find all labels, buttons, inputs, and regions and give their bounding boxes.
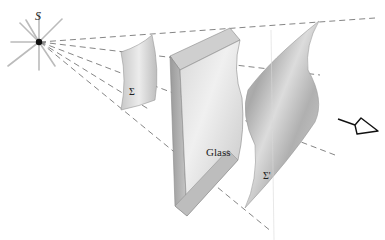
- wavefront-sigma-prime: [245, 21, 319, 208]
- point-source: [36, 39, 42, 45]
- label-wavefront-sigma-prime: Σ': [263, 170, 271, 181]
- label-wavefront-sigma: Σ: [129, 86, 135, 97]
- glass-slab: [170, 28, 243, 216]
- wavefront-diagram: [0, 0, 385, 240]
- label-glass: Glass: [206, 146, 230, 158]
- wavefront-sigma: [121, 35, 157, 110]
- eye-icon: [338, 118, 378, 134]
- label-source: S: [35, 9, 41, 24]
